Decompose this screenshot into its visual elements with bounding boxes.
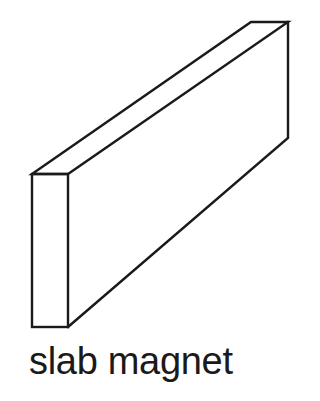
top-face — [32, 22, 288, 174]
front-face — [32, 174, 68, 327]
diagram-caption: slab magnet — [29, 342, 233, 380]
side-face-edge — [68, 22, 288, 327]
